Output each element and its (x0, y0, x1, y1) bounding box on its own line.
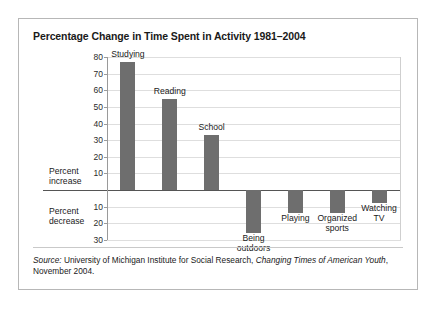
y-axis-tick-label: 30 (73, 236, 103, 245)
bar-label: Being outdoors (222, 234, 286, 253)
bar (372, 190, 387, 203)
y-axis-tick-label: 10 (73, 203, 103, 212)
y-axis-tick-label: 40 (73, 120, 103, 129)
y-axis-tick-mark (104, 240, 107, 241)
y-axis-tick-label: 30 (73, 136, 103, 145)
chart-figure: Percentage Change in Time Spent in Activ… (18, 18, 418, 290)
gridline (107, 140, 401, 141)
bar-label: Watching TV (347, 204, 411, 223)
bar (330, 190, 345, 213)
y-axis-tick-label: 20 (73, 219, 103, 228)
divider (33, 247, 403, 248)
y-axis-tick-label: 60 (73, 86, 103, 95)
gridline (107, 124, 401, 125)
gridline (107, 107, 401, 108)
page-title: Percentage Change in Time Spent in Activ… (33, 30, 305, 42)
source-text-before: University of Michigan Institute for Soc… (62, 255, 256, 265)
y-axis-tick-label: 20 (73, 153, 103, 162)
zero-axis-line (43, 190, 401, 191)
bar-label: Studying (96, 50, 160, 60)
plot-area: 8070605040302010102030 StudyingReadingSc… (107, 57, 401, 240)
bar (246, 190, 261, 233)
gridline (107, 74, 401, 75)
bar-label: School (180, 123, 244, 133)
y-axis-line (107, 57, 108, 240)
y-axis-tick-label: 10 (73, 169, 103, 178)
source-publication-title: Changing Times of American Youth (256, 255, 386, 265)
gridline (107, 173, 401, 174)
bar-label: Reading (138, 87, 202, 97)
y-axis-tick-label: 70 (73, 70, 103, 79)
y-axis-tick-label: 50 (73, 103, 103, 112)
bar (120, 62, 135, 190)
source-citation: Source: University of Michigan Institute… (33, 255, 405, 277)
bar (288, 190, 303, 213)
source-label: Source: (33, 255, 62, 265)
bar (204, 135, 219, 190)
gridline (107, 157, 401, 158)
bar (162, 99, 177, 191)
